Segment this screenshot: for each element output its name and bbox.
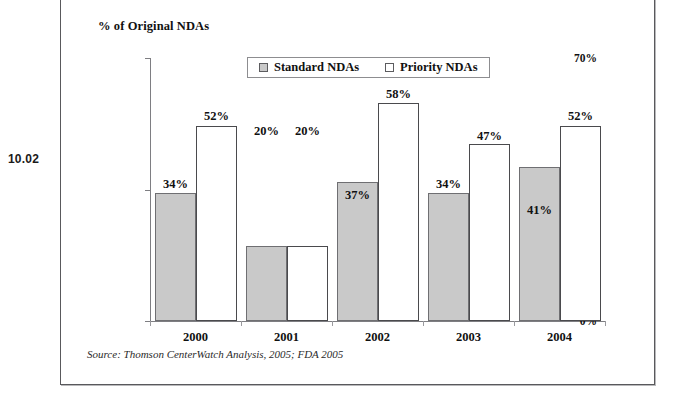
y-tick-70 (145, 58, 150, 59)
bar-label-standard-2003: 34% (436, 177, 461, 192)
x-tick-sep-2 (332, 321, 333, 326)
chart-title: % of Original NDAs (98, 19, 209, 34)
x-axis-label-2001: 2001 (274, 330, 299, 345)
y-axis-line (150, 58, 151, 321)
bar-standard-2003 (428, 193, 469, 321)
figure-number: 10.02 (8, 152, 39, 166)
bar-standard-2001 (246, 246, 287, 321)
bar-label-priority-2004: 52% (568, 109, 593, 124)
x-tick-sep-4 (514, 321, 515, 326)
y-tick-label-70: 70% (574, 52, 597, 64)
bar-label-standard-2000: 34% (163, 177, 188, 192)
x-tick-sep-5 (605, 321, 606, 326)
x-tick-sep-0 (150, 321, 151, 326)
bar-label-priority-2001: 20% (295, 124, 320, 139)
bar-priority-2004 (560, 126, 601, 321)
bar-label-priority-2002: 58% (386, 87, 411, 102)
x-axis-label-2003: 2003 (456, 330, 481, 345)
x-axis-label-2004: 2004 (547, 330, 572, 345)
bar-label-standard-2001: 20% (254, 124, 279, 139)
bar-priority-2001 (287, 246, 328, 321)
bar-label-standard-2002: 37% (345, 188, 370, 203)
bar-label-standard-2004: 41% (527, 203, 552, 218)
figure-frame: % of Original NDAs Standard NDAs Priorit… (60, 0, 655, 385)
bar-priority-2003 (469, 144, 510, 321)
plot-area: 70% 35% 0% 34% 52% 20% 20% 37% 58% 34% 4… (150, 58, 606, 321)
bar-priority-2002 (378, 103, 419, 321)
bar-standard-2000 (155, 193, 196, 321)
bar-standard-2004 (519, 167, 560, 321)
x-tick-sep-1 (241, 321, 242, 326)
bar-label-priority-2000: 52% (204, 109, 229, 124)
x-axis-label-2002: 2002 (365, 330, 390, 345)
source-note: Source: Thomson CenterWatch Analysis, 20… (87, 348, 343, 360)
bar-label-priority-2003: 47% (477, 129, 502, 144)
x-tick-sep-3 (423, 321, 424, 326)
bar-priority-2000 (196, 126, 237, 321)
x-axis-label-2000: 2000 (183, 330, 208, 345)
y-tick-35 (145, 190, 150, 191)
x-axis-line (150, 321, 606, 322)
